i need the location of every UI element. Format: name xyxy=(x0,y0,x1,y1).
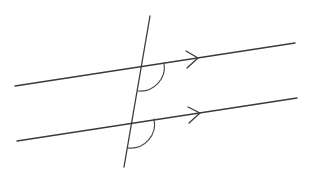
parallel-lines-diagram xyxy=(0,0,309,173)
